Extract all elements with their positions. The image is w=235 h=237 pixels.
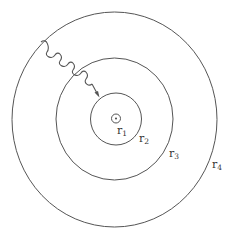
center-dot	[115, 118, 117, 120]
wavy-photon-path	[41, 41, 92, 85]
label-r1: r1	[117, 124, 127, 138]
label-r2: r2	[139, 132, 149, 146]
label-r3: r3	[169, 147, 179, 161]
arrowhead-icon	[95, 91, 100, 98]
concentric-circles-diagram: r1 r2 r3 r4	[0, 0, 235, 237]
label-r4: r4	[212, 158, 222, 172]
circle-r4	[12, 12, 217, 227]
circle-r3	[56, 58, 173, 180]
